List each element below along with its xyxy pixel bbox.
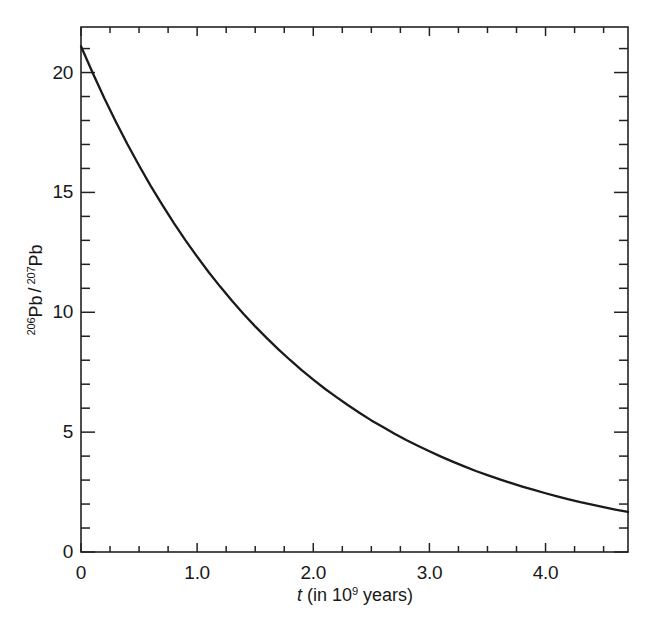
x-axis-title: t(in 109 years) bbox=[297, 585, 413, 606]
axes-frame bbox=[81, 27, 628, 552]
y-tick-label: 5 bbox=[45, 421, 73, 443]
y-axis-isotope2-symbol: Pb bbox=[26, 244, 46, 266]
tick-marks bbox=[81, 27, 628, 552]
y-tick-label: 20 bbox=[45, 62, 73, 84]
y-axis-isotope1-symbol: Pb bbox=[26, 296, 46, 318]
x-tick-label: 1.0 bbox=[184, 562, 210, 584]
y-axis-isotope1-mass: 206 bbox=[25, 318, 37, 336]
x-axis-unit-open: (in 10 bbox=[307, 585, 352, 605]
x-axis-variable: t bbox=[297, 585, 307, 605]
x-tick-label: 0 bbox=[76, 562, 86, 584]
figure-container: 01.02.03.04.0 05101520 t(in 109 years) 2… bbox=[0, 0, 652, 626]
y-tick-label: 10 bbox=[45, 301, 73, 323]
x-tick-label: 3.0 bbox=[417, 562, 443, 584]
data-series-line bbox=[81, 46, 628, 512]
plot-area bbox=[0, 0, 652, 626]
y-axis-isotope2-mass: 207 bbox=[25, 266, 37, 284]
x-tick-label: 2.0 bbox=[301, 562, 327, 584]
y-tick-label: 0 bbox=[45, 541, 73, 563]
y-axis-ratio-separator: / bbox=[26, 284, 46, 295]
y-tick-label: 15 bbox=[45, 181, 73, 203]
y-axis-title: 206Pb/207Pb bbox=[25, 244, 46, 335]
x-tick-label: 4.0 bbox=[533, 562, 559, 584]
x-axis-unit-close: years) bbox=[358, 585, 413, 605]
